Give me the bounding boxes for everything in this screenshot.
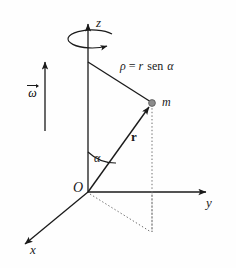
origin-label: O [73, 181, 83, 195]
rho-radius: r [139, 59, 144, 73]
rho-equation-label: ρ=rsenα [120, 60, 174, 72]
alpha-angle-arc [88, 152, 116, 163]
x-axis-label: x [30, 243, 36, 256]
rho-equals: = [129, 59, 136, 73]
z-axis-label: z [96, 16, 101, 29]
vector-arrow-overbar-icon [27, 85, 38, 86]
rho-function: sen [147, 59, 163, 73]
x-axis-line [25, 192, 88, 244]
rho-symbol: ρ [120, 59, 126, 73]
diagram-canvas [0, 0, 236, 268]
projection-line-origin-to-foot [90, 194, 151, 232]
rho-argument: α [167, 59, 173, 73]
physics-diagram-figure: z y x O m r α ρ=rsenα ω [0, 0, 236, 268]
r-vector-label: r [131, 130, 137, 143]
r-vector-line [88, 107, 149, 192]
omega-glyph: ω [28, 87, 36, 99]
alpha-angle-label: α [94, 152, 100, 164]
point-mass-dot [149, 100, 156, 107]
point-mass-label: m [162, 96, 171, 108]
rotation-arc [68, 30, 112, 48]
omega-vector-label: ω [27, 85, 38, 99]
y-axis-label: y [206, 196, 212, 209]
